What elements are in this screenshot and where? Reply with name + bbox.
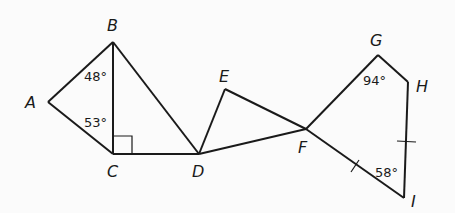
label-d: D (192, 162, 204, 181)
segment-fi (306, 129, 404, 198)
segment-ef (225, 89, 306, 129)
angle-acb-label: 53° (84, 115, 107, 130)
angle-fih-label: 58° (375, 165, 398, 180)
label-h: H (416, 77, 428, 96)
label-c: C (107, 162, 119, 181)
segment-hi (404, 82, 408, 198)
tick-mark-hi (397, 141, 416, 142)
segment-de (199, 89, 225, 154)
geometry-diagram: A B C D E F G H I 48° 53° 94° 58° (0, 0, 455, 213)
angle-abc-label: 48° (84, 69, 107, 84)
angle-fgh-label: 94° (363, 73, 386, 88)
label-i: I (411, 192, 416, 211)
label-e: E (219, 67, 230, 86)
label-a: A (24, 93, 36, 112)
right-angle-mark (113, 136, 132, 154)
segment-bd (113, 42, 199, 154)
segment-df (199, 129, 306, 154)
label-f: F (298, 138, 308, 157)
segment-fg (306, 55, 378, 129)
label-g: G (370, 31, 382, 50)
label-b: B (107, 16, 118, 35)
